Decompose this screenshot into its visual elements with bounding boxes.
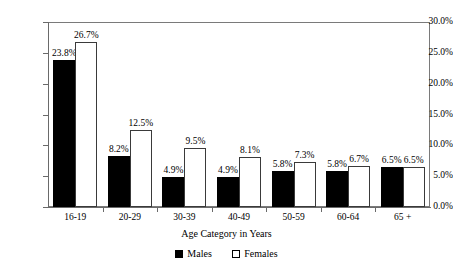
filled-square-icon [175, 250, 183, 258]
bar-female-30-39 [184, 148, 206, 207]
bar-female-65 [403, 167, 425, 207]
legend-label-males: Males [187, 248, 211, 259]
x-tick-label: 50-59 [266, 212, 321, 223]
x-tick-label: 16-19 [48, 212, 103, 223]
bar-female-16-19 [75, 42, 97, 207]
bar-value-label: 8.1% [231, 145, 269, 155]
y-tick-mark [43, 145, 48, 146]
bar-value-label: 9.5% [176, 136, 214, 146]
legend-item-females: Females [232, 248, 277, 259]
y-tick-label: 10.0% [409, 140, 453, 150]
y-tick-label: 15.0% [409, 110, 453, 120]
y-tick-mark [43, 115, 48, 116]
bar-female-20-29 [130, 130, 152, 207]
x-axis-line [48, 207, 431, 208]
bar-male-40-49 [217, 177, 239, 207]
bar-male-30-39 [162, 177, 184, 207]
bar-male-60-64 [326, 171, 348, 207]
y-tick-mark [43, 84, 48, 85]
bar-chart: 0.0%5.0%10.0%15.0%20.0%25.0%30.0% 23.8%2… [0, 0, 453, 267]
y-tick-label: 30.0% [409, 17, 453, 27]
x-tick-label: 30-39 [157, 212, 212, 223]
bar-value-label: 12.5% [122, 118, 160, 128]
x-tick-label: 20-29 [103, 212, 158, 223]
y-tick-label: 25.0% [409, 48, 453, 58]
bar-value-label: 26.7% [67, 30, 105, 40]
x-tick-label: 40-49 [212, 212, 267, 223]
y-tick-mark [43, 22, 48, 23]
bar-male-16-19 [53, 60, 75, 207]
x-tick-label: 65 + [375, 212, 430, 223]
x-axis-title: Age Category in Years [0, 228, 453, 239]
open-square-icon [232, 250, 240, 258]
bar-female-40-49 [239, 157, 261, 207]
bar-female-60-64 [348, 166, 370, 207]
y-tick-mark [43, 176, 48, 177]
legend-item-males: Males [175, 248, 211, 259]
bar-male-65 [381, 167, 403, 207]
legend-label-females: Females [244, 248, 277, 259]
bar-male-50-59 [272, 171, 294, 207]
x-tick-label: 60-64 [321, 212, 376, 223]
bar-female-50-59 [294, 162, 316, 207]
chart-legend: Males Females [0, 248, 453, 259]
y-tick-label: 20.0% [409, 79, 453, 89]
bar-male-20-29 [108, 156, 130, 207]
bar-value-label: 6.5% [395, 155, 433, 165]
y-tick-mark [43, 207, 48, 208]
